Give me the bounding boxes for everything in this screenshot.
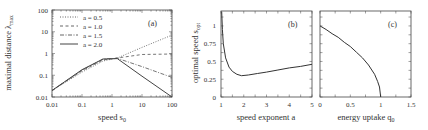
x-tick-label: 3 xyxy=(265,101,269,109)
panel-b-xlabel: speed exponent a xyxy=(237,112,296,122)
x-tick-label: 5 xyxy=(310,101,314,109)
x-tick-label: 1 xyxy=(379,101,383,109)
x-tick-label: 1.5 xyxy=(407,101,416,109)
panel-b: (b) 1234500.250.50.751 speed exponent a … xyxy=(190,11,314,122)
panel-b-tick-labels: 1234500.250.50.751 xyxy=(204,22,315,109)
panel-c-ticks xyxy=(320,11,411,97)
panel-c-xlabel: energy uptake q0 xyxy=(337,112,394,123)
y-tick-label: 0.01 xyxy=(36,94,49,102)
legend-label-a10: a = 1.0 xyxy=(83,23,103,31)
panel-b-frame xyxy=(221,11,312,97)
legend-label-a20: a = 2.0 xyxy=(83,41,103,49)
y-tick-label: 10 xyxy=(41,28,49,36)
panel-c-curves xyxy=(320,26,381,97)
y-tick-label: 0.25 xyxy=(204,76,217,84)
y-tick-label: 100 xyxy=(38,7,49,15)
y-tick-label: 0.5 xyxy=(207,58,216,66)
x-tick-label: 4 xyxy=(288,101,292,109)
y-tick-label: 0.75 xyxy=(204,40,217,48)
panel-c-tick-labels: 00.511.5 xyxy=(318,101,416,109)
x-tick-label: 100 xyxy=(167,101,178,109)
panel-a: (a) a = 0.5 a = 1.0 a = 1.5 a = 2.0 0.01… xyxy=(3,7,178,124)
series-line xyxy=(52,58,172,90)
panel-b-ticks xyxy=(221,11,312,97)
x-tick-label: 0.1 xyxy=(78,101,87,109)
panel-b-label: (b) xyxy=(288,20,298,29)
x-tick-label: 1 xyxy=(110,101,114,109)
x-tick-label: 0.01 xyxy=(46,101,59,109)
figure: (a) a = 0.5 a = 1.0 a = 1.5 a = 2.0 0.01… xyxy=(0,0,428,130)
series-line xyxy=(222,12,312,76)
y-tick-label: 0 xyxy=(213,94,217,102)
series-line xyxy=(320,26,381,97)
panel-c-frame xyxy=(320,11,411,97)
series-line xyxy=(52,35,172,90)
panel-c-label: (c) xyxy=(388,20,397,29)
x-tick-label: 0.5 xyxy=(346,101,355,109)
panel-c: (c) 00.511.5 energy uptake q0 xyxy=(318,11,416,123)
x-tick-label: 10 xyxy=(139,101,147,109)
panel-a-label: (a) xyxy=(148,19,157,28)
panel-b-ylabel: optimal speed sopt xyxy=(190,23,201,83)
y-tick-label: 0.1 xyxy=(39,72,48,80)
y-tick-label: 1 xyxy=(213,22,217,30)
x-tick-label: 2 xyxy=(242,101,246,109)
series-line xyxy=(52,59,172,97)
panel-b-curves xyxy=(222,12,312,76)
x-tick-label: 1 xyxy=(219,101,223,109)
panel-a-ylabel: maximal distance λmax xyxy=(3,15,14,91)
panel-a-xlabel: speed s0 xyxy=(98,112,126,123)
legend-label-a15: a = 1.5 xyxy=(83,32,103,40)
legend-label-a05: a = 0.5 xyxy=(83,14,103,22)
legend: a = 0.5 a = 1.0 a = 1.5 a = 2.0 xyxy=(60,14,103,49)
x-tick-label: 0 xyxy=(318,101,322,109)
y-tick-label: 1 xyxy=(45,50,49,58)
